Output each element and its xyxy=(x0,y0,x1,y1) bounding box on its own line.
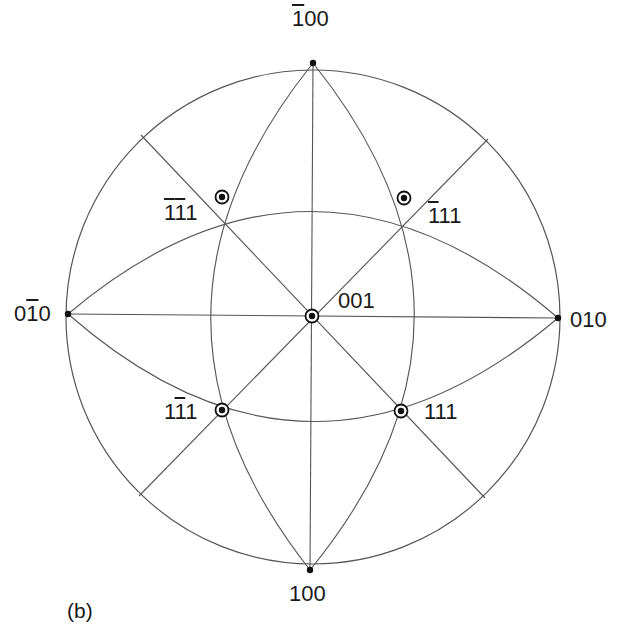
pole-center-dot-icon xyxy=(398,408,404,414)
miller-index-digit: 1 xyxy=(26,301,38,326)
miller-index-digit: 0 xyxy=(338,288,350,313)
miller-index-digit: 0 xyxy=(570,307,582,332)
pole-dot-icon xyxy=(307,567,313,573)
miller-index-digit: 0 xyxy=(304,6,316,31)
miller-index-digit: 1 xyxy=(185,200,197,225)
pole-label-p-1bar11: 111 xyxy=(428,205,461,227)
miller-index-digit: 1 xyxy=(175,200,186,225)
pole-center-dot-icon xyxy=(219,194,225,200)
miller-index-digit: 0 xyxy=(314,581,326,606)
miller-index-digit: 1 xyxy=(445,399,457,424)
miller-index-digit: 1 xyxy=(164,200,175,225)
great-circle-arc-top-horizontal xyxy=(68,211,558,318)
miller-index-digit: 1 xyxy=(428,203,439,228)
pole-center-dot-icon xyxy=(219,407,225,413)
stereogram-canvas xyxy=(0,0,627,636)
miller-index-digit: 1 xyxy=(439,203,450,228)
miller-index-digit: 1 xyxy=(185,399,197,424)
pole-center-dot-icon xyxy=(309,313,315,319)
miller-index-digit: 1 xyxy=(582,307,594,332)
pole-label-p-11bar1: 111 xyxy=(164,401,197,423)
miller-index-digit: 1 xyxy=(175,399,186,424)
miller-index-digit: 1 xyxy=(363,288,375,313)
pole-label-p-111: 111 xyxy=(424,401,457,423)
pole-dot-icon xyxy=(310,60,316,66)
miller-index-digit: 0 xyxy=(39,301,51,326)
miller-index-digit: 1 xyxy=(289,581,301,606)
miller-index-digit: 1 xyxy=(292,6,304,31)
miller-index-digit: 0 xyxy=(350,288,362,313)
pole-label-p-001: 001 xyxy=(338,290,375,312)
miller-index-digit: 0 xyxy=(595,307,607,332)
miller-index-digit: 1 xyxy=(449,203,461,228)
miller-index-digit: 1 xyxy=(424,399,435,424)
miller-index-digit: 1 xyxy=(435,399,446,424)
pole-label-p-1bar1bar1: 111 xyxy=(164,202,197,224)
miller-index-digit: 0 xyxy=(301,581,313,606)
panel-label: (b) xyxy=(67,600,93,621)
great-circle-arc-left-vertical xyxy=(211,63,313,570)
pole-label-p-010: 010 xyxy=(570,309,607,331)
great-circle-arc-bottom-horizontal xyxy=(68,314,558,422)
miller-index-digit: 1 xyxy=(164,399,175,424)
pole-label-p-010bar: 010 xyxy=(14,303,51,325)
stereographic-projection-figure: 100100010010001111111111111 (b) xyxy=(0,0,627,636)
miller-index-digit: 0 xyxy=(14,301,26,326)
pole-label-p-100bar: 100 xyxy=(292,8,329,30)
pole-center-dot-icon xyxy=(401,195,407,201)
pole-label-p-100: 100 xyxy=(289,583,326,605)
pole-dot-icon xyxy=(555,315,561,321)
miller-index-digit: 0 xyxy=(317,6,329,31)
pole-dot-icon xyxy=(65,311,71,317)
